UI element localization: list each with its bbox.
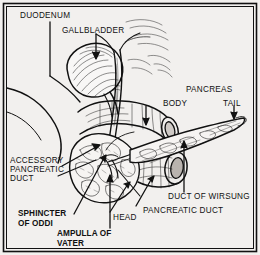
- label-tail: TAIL: [223, 99, 241, 109]
- label-duodenum: DUODENUM: [20, 11, 70, 21]
- label-accessory-pancreatic-duct-line3: DUCT: [10, 174, 34, 184]
- label-sphincter-of-oddi-line2: OF ODDI: [18, 219, 53, 229]
- label-head: HEAD: [113, 213, 137, 223]
- label-duct-of-wirsung: DUCT OF WIRSUNG: [168, 192, 250, 202]
- label-gallbladder: GALLBLADDER: [62, 26, 124, 36]
- label-pancreatic-duct: PANCREATIC DUCT: [143, 206, 223, 216]
- label-ampulla-of-vater-line2: VATER: [57, 239, 84, 249]
- label-sphincter-of-oddi-line1: SPHINCTER: [18, 209, 66, 219]
- label-pancreas: PANCREAS: [186, 85, 232, 95]
- anatomy-figure: DUODENUM GALLBLADDER PANCREAS BODY TAIL …: [0, 0, 260, 255]
- label-ampulla-of-vater-line1: AMPULLA OF: [57, 229, 111, 239]
- label-body: BODY: [163, 99, 187, 109]
